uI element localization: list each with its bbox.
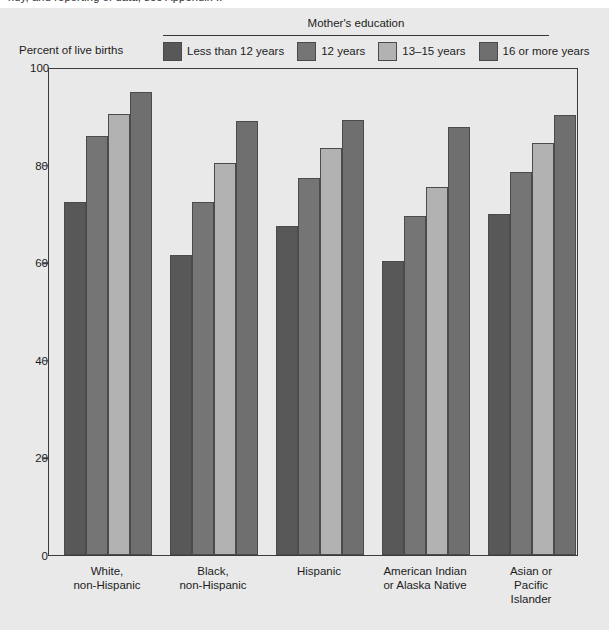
plot-area-frame xyxy=(48,68,578,556)
bar-group xyxy=(170,69,258,555)
y-axis-title: Percent of live births xyxy=(19,44,123,56)
bar[interactable] xyxy=(64,202,86,555)
legend-swatch-icon xyxy=(297,42,316,61)
bar[interactable] xyxy=(276,226,298,555)
bar[interactable] xyxy=(426,187,448,555)
bar[interactable] xyxy=(404,216,426,555)
bar-group xyxy=(276,69,364,555)
legend-swatch-icon xyxy=(479,42,498,61)
y-axis-tick-label: 0 xyxy=(30,550,48,562)
x-axis-category-label: Hispanic xyxy=(297,564,341,578)
x-axis-category-label: Black, non-Hispanic xyxy=(179,564,246,592)
bar[interactable] xyxy=(192,202,214,555)
x-axis-category-label: White, non-Hispanic xyxy=(73,564,140,592)
bar[interactable] xyxy=(298,178,320,555)
bar[interactable] xyxy=(108,114,130,555)
bar[interactable] xyxy=(382,261,404,555)
bar[interactable] xyxy=(554,115,576,555)
bar[interactable] xyxy=(214,163,236,555)
y-axis-tick-label: 100 xyxy=(30,62,48,74)
legend-title: Mother's education xyxy=(163,17,549,29)
legend-item-label: Less than 12 years xyxy=(187,45,284,57)
bar-group xyxy=(488,69,576,555)
bar[interactable] xyxy=(510,172,532,555)
legend-swatch-icon xyxy=(163,42,182,61)
plot-area xyxy=(49,69,577,555)
bar[interactable] xyxy=(448,127,470,555)
bar[interactable] xyxy=(342,120,364,555)
legend-item-16-or-more-years[interactable]: 16 or more years xyxy=(479,42,590,61)
bar[interactable] xyxy=(170,255,192,555)
legend-item-label: 13–15 years xyxy=(402,45,465,57)
bar[interactable] xyxy=(320,148,342,555)
x-axis-category-label: Asian or Pacific Islander xyxy=(492,564,570,606)
bar[interactable] xyxy=(130,92,152,555)
legend-item-13-15-years[interactable]: 13–15 years xyxy=(378,42,465,61)
bar[interactable] xyxy=(488,214,510,555)
cut-off-text-sliver: ndy, and reporting of data, see Appendix… xyxy=(0,0,609,8)
legend-swatch-icon xyxy=(378,42,397,61)
legend-item-less-than-12-years[interactable]: Less than 12 years xyxy=(163,42,284,61)
x-axis-category-label: American Indian or Alaska Native xyxy=(383,564,466,592)
bar-group xyxy=(64,69,152,555)
bar[interactable] xyxy=(532,143,554,555)
legend-divider-rule xyxy=(163,35,549,36)
legend: Less than 12 years 12 years 13–15 years … xyxy=(163,41,603,61)
legend-item-12-years[interactable]: 12 years xyxy=(297,42,365,61)
figure-panel: Mother's education Less than 12 years 12… xyxy=(0,8,609,630)
bar-group xyxy=(382,69,470,555)
legend-item-label: 12 years xyxy=(321,45,365,57)
bar[interactable] xyxy=(236,121,258,555)
bar[interactable] xyxy=(86,136,108,555)
cut-off-caption-text: ndy, and reporting of data, see Appendix… xyxy=(8,0,223,3)
legend-item-label: 16 or more years xyxy=(503,45,590,57)
